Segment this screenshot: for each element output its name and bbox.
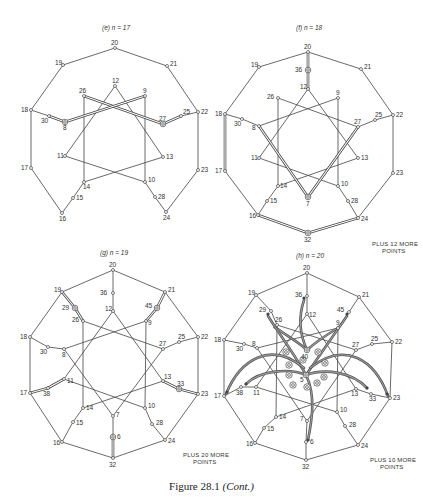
node-label: 26 xyxy=(79,87,87,94)
node-label: 32 xyxy=(304,236,312,243)
node-label: 24 xyxy=(361,442,369,449)
node-label: 45 xyxy=(337,306,345,313)
panel-title: (f) n = 18 xyxy=(296,24,323,32)
edge xyxy=(224,295,256,340)
node-28 xyxy=(347,200,350,203)
node-label: 13 xyxy=(361,154,369,161)
node-label: 28 xyxy=(156,419,164,426)
edge xyxy=(345,426,358,445)
edge xyxy=(165,292,198,337)
node-label: 25 xyxy=(178,333,186,340)
node-label: 10 xyxy=(340,406,348,413)
edge xyxy=(31,110,49,116)
node-15 xyxy=(72,421,75,424)
node-22 xyxy=(197,336,200,339)
node-18 xyxy=(30,109,33,112)
node-20 xyxy=(112,269,115,272)
edge xyxy=(255,443,306,460)
node-label: 36 xyxy=(100,289,108,296)
node-14 xyxy=(82,407,85,410)
node-17 xyxy=(223,395,226,398)
node-45 xyxy=(348,311,351,314)
caption-label: Figure 28.1 xyxy=(169,480,220,492)
edge xyxy=(259,52,308,67)
figure-caption: Figure 28.1 (Cont.) xyxy=(0,480,423,492)
edge xyxy=(242,119,259,126)
node-label: 19 xyxy=(54,286,62,293)
node-15 xyxy=(266,200,269,203)
node-label: 12 xyxy=(105,305,113,312)
node-29 xyxy=(270,310,273,313)
node-6 xyxy=(305,441,308,444)
node-24 xyxy=(357,217,360,220)
node-label: 11 xyxy=(253,389,260,396)
node-label: 16 xyxy=(246,440,254,447)
node-label: 24 xyxy=(168,437,176,444)
node-label: 16 xyxy=(59,215,67,222)
node-13 xyxy=(162,156,165,159)
node-label: 29 xyxy=(259,306,267,313)
node-27 xyxy=(355,349,358,352)
edge xyxy=(338,186,348,201)
node-label: 11 xyxy=(67,377,74,384)
node-label: 25 xyxy=(183,108,191,115)
edge xyxy=(225,67,259,114)
edge xyxy=(390,342,392,398)
node-label: 33 xyxy=(177,380,185,387)
arrow-head-icon xyxy=(365,386,368,389)
edge xyxy=(63,48,115,65)
node-23 xyxy=(197,169,200,172)
node-label: 26 xyxy=(72,316,80,323)
edge xyxy=(225,171,258,215)
node-label: 14 xyxy=(280,182,288,189)
node-label: 17 xyxy=(215,167,223,174)
node-label: 11 xyxy=(251,154,258,161)
edge xyxy=(64,379,145,408)
node-27 xyxy=(162,348,165,351)
node-16 xyxy=(257,214,260,217)
node-label: 22 xyxy=(201,108,209,115)
node-label: 36 xyxy=(295,291,303,298)
edge xyxy=(62,198,73,213)
edge xyxy=(225,114,242,119)
node-label: 26 xyxy=(267,93,275,100)
node-28 xyxy=(154,196,157,199)
node-label: 12 xyxy=(300,83,308,90)
edge xyxy=(62,442,113,458)
node-21 xyxy=(166,65,169,68)
edge xyxy=(358,398,390,445)
node-label: 18 xyxy=(21,106,29,113)
panel-e: (e) n = 17891011121314151617181920212223… xyxy=(21,24,209,222)
edge xyxy=(337,412,345,426)
node-28 xyxy=(344,425,347,428)
node-label: 6 xyxy=(117,433,121,440)
node-22 xyxy=(391,341,394,344)
node-17 xyxy=(30,167,33,170)
edge xyxy=(167,66,198,112)
edge xyxy=(115,48,167,66)
node-36 xyxy=(112,292,115,295)
node-18 xyxy=(224,113,227,116)
node-label: 30 xyxy=(41,117,49,124)
node-24 xyxy=(357,444,360,447)
node-20 xyxy=(306,272,309,275)
node-11 xyxy=(64,155,67,158)
more-points-note: PLUS 10 MORE xyxy=(370,457,416,463)
node-label: 9 xyxy=(143,87,147,94)
node-label: 17 xyxy=(20,389,28,396)
node-10 xyxy=(337,185,340,188)
node-label: 21 xyxy=(364,63,372,70)
node-10 xyxy=(336,411,339,414)
node-label: 16 xyxy=(53,439,61,446)
node-label: 28 xyxy=(349,421,357,428)
panel-h: (h) n = 20567891011121314151617181920212… xyxy=(214,252,416,470)
node-label: 8 xyxy=(62,351,66,358)
node-label: 27 xyxy=(352,341,360,348)
node-22 xyxy=(197,111,200,114)
node-label: 21 xyxy=(170,60,178,67)
node-label: 6 xyxy=(310,438,314,445)
node-25 xyxy=(374,119,377,122)
node-label: 27 xyxy=(159,115,167,122)
node-label: 21 xyxy=(362,291,370,298)
panel-g: (g) n = 19678910111213141516171819202122… xyxy=(20,249,229,468)
